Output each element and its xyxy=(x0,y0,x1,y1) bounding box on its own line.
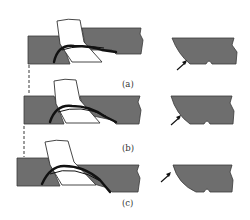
section-profile-c xyxy=(173,165,233,192)
panel-a: (a) xyxy=(28,19,143,89)
panel-b: (b) xyxy=(24,79,141,153)
panel-label-b: (b) xyxy=(122,143,134,153)
cross-section-c xyxy=(161,165,233,192)
section-profile-b xyxy=(171,96,234,124)
cross-section-a xyxy=(172,38,237,70)
machining-diagram: (a) (b) (c) xyxy=(0,0,250,220)
section-profile-a xyxy=(172,38,237,64)
panel-label-a: (a) xyxy=(122,79,134,89)
panel-label-c: (c) xyxy=(122,198,133,208)
cross-section-b xyxy=(171,96,234,125)
